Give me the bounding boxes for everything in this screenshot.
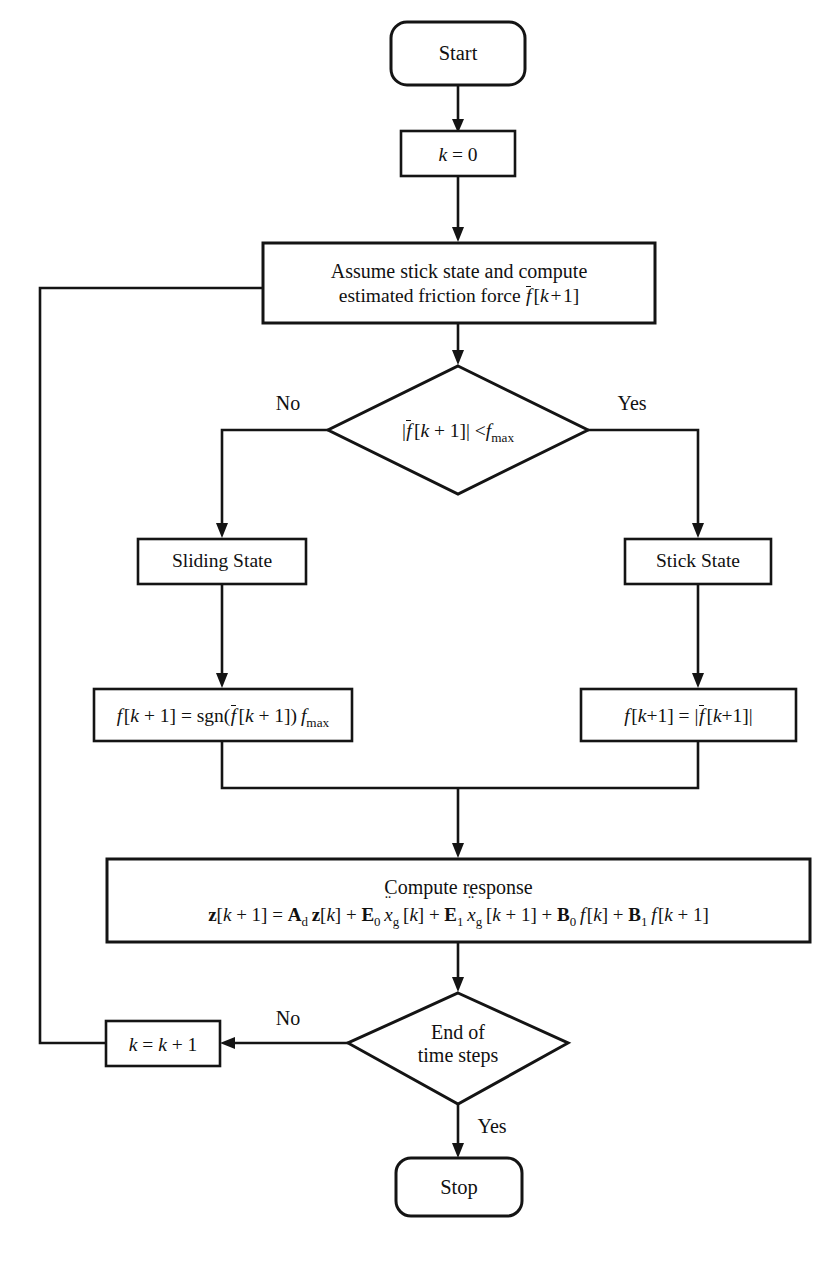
- edge-assume-to-decision1: [452, 323, 464, 365]
- decision2-label-block: End of time steps: [378, 1013, 538, 1075]
- edge-line: [222, 430, 328, 528]
- edge-response-to-decision2: [452, 942, 464, 992]
- assume-line-1: Assume stick state and compute: [331, 260, 588, 283]
- response-line-1: Compute response: [384, 876, 532, 899]
- arrowhead: [216, 523, 228, 538]
- edge-stick-to-stickeq: [692, 584, 704, 688]
- arrowhead: [216, 673, 228, 688]
- arrowhead: [692, 523, 704, 538]
- node-assume-stick-state[interactable]: Assume stick state and compute estimated…: [263, 243, 655, 323]
- slide-eq-label: f [k + 1] = sgn(f [k + 1]) fmax: [96, 695, 350, 737]
- assume-line-2: estimated friction force f [k + 1]: [339, 285, 580, 307]
- node-stick-state[interactable]: Stick State: [625, 539, 771, 584]
- assume-line-2-prefix: estimated friction force: [339, 285, 526, 306]
- arrowhead: [220, 1037, 235, 1049]
- branch-label-decision1-yes: Yes: [617, 392, 646, 414]
- response-line-2: z[k + 1] = Ad z[k] + E0 xg [k] + E1 xg […: [208, 904, 709, 926]
- branch-label-decision2-yes: Yes: [477, 1115, 506, 1137]
- edge-sliding-to-slideeq: [216, 584, 228, 688]
- flowchart-svg: No Yes No Yes Start k = 0 Assume stick s…: [0, 0, 835, 1263]
- arrowhead: [692, 673, 704, 688]
- branch-label-decision2-no: No: [276, 1007, 300, 1029]
- edge-line: [588, 430, 698, 528]
- edge-decision1-yes-to-stick: [588, 430, 704, 538]
- init-label: k = 0: [401, 137, 515, 173]
- assume-label-block: Assume stick state and compute estimated…: [266, 248, 652, 320]
- edge-decision2-no-to-increment: [220, 1037, 348, 1049]
- edge-merge-to-response: [222, 741, 698, 858]
- arrowhead: [452, 350, 464, 365]
- node-sliding-equation[interactable]: f [k + 1] = sgn(f [k + 1]) fmax: [94, 689, 352, 741]
- flowchart-canvas: No Yes No Yes Start k = 0 Assume stick s…: [0, 0, 835, 1263]
- arrowhead: [452, 1143, 464, 1158]
- decision2-line-1: End of: [431, 1021, 485, 1044]
- stop-label: Stop: [440, 1176, 478, 1199]
- stick-eq-label: f [k+1] = |f [k+1]|: [583, 695, 794, 737]
- edge-line: [222, 741, 698, 788]
- start-label: Start: [439, 42, 478, 64]
- node-decision-friction-threshold[interactable]: |f [k + 1]| <fmax: [328, 366, 588, 494]
- edge-decision2-yes-to-stop: [452, 1104, 464, 1158]
- edge-decision1-no-to-sliding: [216, 430, 328, 538]
- response-label-block: Compute response z[k + 1] = Ad z[k] + E0…: [110, 864, 807, 938]
- edge-init-to-assume: [452, 176, 464, 242]
- node-stop[interactable]: Stop: [396, 1158, 522, 1216]
- node-start[interactable]: Start: [391, 22, 525, 85]
- node-increment-counter[interactable]: k = k + 1: [106, 1021, 220, 1066]
- increment-label: k = k + 1: [106, 1027, 220, 1063]
- node-decision-end-of-time-steps[interactable]: End of time steps: [348, 993, 568, 1104]
- stick-label: Stick State: [656, 550, 740, 571]
- node-sliding-state[interactable]: Sliding State: [138, 539, 306, 584]
- arrowhead: [452, 977, 464, 992]
- arrowhead: [452, 227, 464, 242]
- node-stick-equation[interactable]: f [k+1] = |f [k+1]|: [581, 689, 796, 741]
- edge-start-to-init: [452, 85, 464, 133]
- decision2-line-2: time steps: [418, 1044, 499, 1067]
- branch-label-decision1-no: No: [276, 392, 300, 414]
- node-init[interactable]: k = 0: [401, 131, 515, 176]
- sliding-label: Sliding State: [172, 550, 272, 571]
- arrowhead: [452, 843, 464, 858]
- decision1-label: |f [k + 1]| <fmax: [346, 410, 570, 452]
- node-compute-response[interactable]: Compute response z[k + 1] = Ad z[k] + E0…: [107, 859, 810, 942]
